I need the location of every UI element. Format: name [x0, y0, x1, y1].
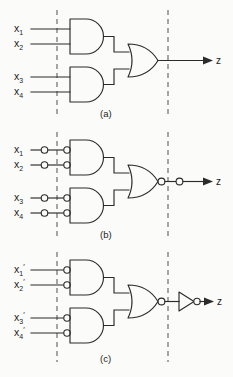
panel-b-wire-bubble-4: [41, 210, 48, 217]
panel-c-input-label-2: x2′: [14, 277, 25, 292]
panel-c-input-bubble-3: [64, 315, 70, 321]
panel-b-wire-bubble-3: [41, 195, 48, 202]
panel-b-output-arrowhead: [203, 178, 213, 186]
logic-circuit-figure: x1 x2 x3 x4 z (a) x1 x2 x3 x4: [0, 0, 233, 377]
panel-b: x1 x2 x3 x4: [14, 132, 221, 240]
panel-c-input-label-4: x4′: [14, 325, 25, 340]
panel-b-input-bubble-2: [64, 162, 70, 168]
panel-b-input-bubble-1: [64, 147, 70, 153]
panel-a-output-label: z: [216, 55, 221, 66]
panel-a-and-gate-top: [70, 19, 104, 54]
panel-c-and-gate-top: [70, 260, 104, 295]
panel-b-input-label-1: x1: [14, 143, 23, 157]
panel-c-input-label-1: x1′: [14, 262, 25, 277]
panel-c-output-label: z: [217, 296, 222, 307]
panel-b-and-gate-top: [70, 140, 104, 175]
panel-a-and-gate-bottom: [70, 67, 103, 102]
panel-a-caption: (a): [100, 108, 112, 119]
panel-b-or-gate: [128, 165, 158, 198]
panel-b-input-label-4: x4: [14, 206, 23, 220]
panel-c-not-gate: [179, 292, 194, 311]
panel-c-input-bubble-1: [64, 267, 70, 273]
panel-c-input-label-3: x3′: [14, 310, 25, 325]
panel-b-input-label-2: x2: [14, 158, 23, 172]
panel-b-input-label-3: x3: [14, 191, 23, 205]
panel-b-wire-bubble-2: [41, 162, 48, 169]
panel-b-output-wire-bubble: [176, 178, 183, 185]
panel-c-caption: (c): [100, 353, 111, 364]
panel-a-input-label-2: x2: [14, 37, 23, 51]
panel-b-wire-and-top-to-or: [104, 158, 130, 174]
panel-c: x1′ x2′ x3′ x4′ z (c): [14, 252, 222, 364]
panel-a-wire-and-top-to-or: [104, 37, 130, 53]
panel-b-wire-and-bottom-to-or: [104, 190, 130, 206]
panel-b-output-label: z: [216, 176, 221, 187]
panel-b-input-bubble-4: [64, 210, 70, 216]
panel-b-and-gate-bottom: [70, 188, 104, 223]
panel-a-input-label-3: x3: [14, 70, 23, 84]
panel-a-output-arrowhead: [203, 57, 213, 65]
panel-c-wire-and-bottom-to-or: [104, 310, 130, 326]
panel-a-input-label-4: x4: [14, 85, 23, 99]
panel-c-input-bubble-2: [64, 282, 70, 288]
panel-b-output-bubble: [158, 178, 165, 185]
panel-b-caption: (b): [100, 229, 112, 240]
panel-c-output-bubble: [158, 298, 165, 305]
panel-a-or-gate: [128, 44, 158, 77]
panel-c-or-gate: [128, 285, 158, 318]
panel-b-input-bubble-3: [64, 195, 70, 201]
panel-c-wire-and-top-to-or: [104, 278, 130, 294]
panel-a-input-label-1: x1: [14, 22, 23, 36]
panel-b-wire-bubble-1: [41, 147, 48, 154]
panel-a: x1 x2 x3 x4 z (a): [14, 10, 221, 119]
panel-c-and-gate-bottom: [70, 308, 104, 343]
panel-c-output-arrowhead: [204, 298, 214, 306]
circuit-diagram-svg: x1 x2 x3 x4 z (a) x1 x2 x3 x4: [0, 0, 233, 377]
panel-c-not-gate-bubble: [194, 298, 200, 304]
panel-c-input-bubble-4: [64, 330, 70, 336]
panel-a-wire-and-bottom-to-or: [104, 69, 130, 85]
